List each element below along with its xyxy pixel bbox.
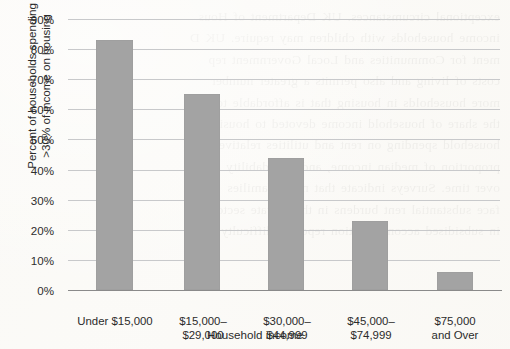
- ytick-label-20: 20%: [0, 223, 54, 236]
- plot-area: 90% 80% 70% 60% 50% 40% 30% 20% 10% 0% U…: [68, 19, 500, 290]
- ytick-label-0: 0%: [0, 284, 54, 297]
- bar-75000-and-over: [437, 272, 473, 290]
- bar-45000-74999: [352, 221, 388, 290]
- bar-15000-29000: [184, 94, 220, 290]
- y-axis-title: Percent of households spending >30% of i…: [25, 0, 53, 202]
- ytick-label-10: 10%: [0, 253, 54, 266]
- bar-under-15000: [96, 40, 133, 290]
- bar-30000-44999: [268, 158, 304, 290]
- x-axis-line: [68, 290, 502, 291]
- bar-chart: 90% 80% 70% 60% 50% 40% 30% 20% 10% 0% U…: [0, 0, 510, 349]
- gridline-90: [68, 19, 500, 20]
- x-axis-title: Household income: [0, 328, 510, 341]
